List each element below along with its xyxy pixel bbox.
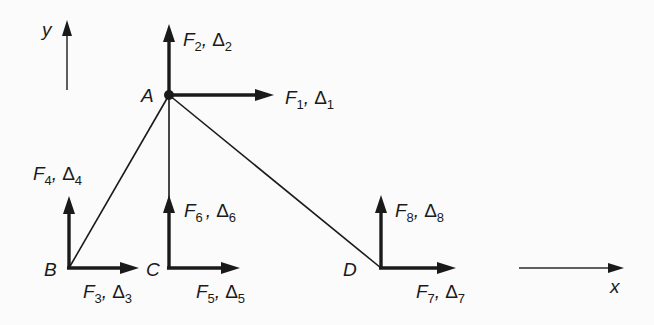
delta-subscript: 5	[238, 291, 245, 306]
y-axis-arrowhead-icon	[62, 20, 72, 36]
delta-subscript: 8	[437, 210, 444, 225]
member-AD	[169, 95, 381, 268]
arrowhead-right-icon	[255, 89, 274, 101]
delta-subscript: 4	[75, 173, 82, 188]
arrowhead-up-icon	[163, 24, 175, 42]
delta-symbol: Δ	[216, 200, 229, 221]
dof-label-7: F7,Δ7	[416, 281, 465, 306]
force-subscript: 8	[407, 210, 414, 225]
force-subscript: 3	[95, 291, 102, 306]
delta-subscript: 7	[458, 291, 465, 306]
delta-subscript: 2	[225, 39, 232, 54]
delta-symbol: Δ	[445, 281, 458, 302]
comma: ,	[414, 200, 419, 221]
force-subscript: 5	[208, 291, 215, 306]
dof-label-1: F1,Δ1	[285, 87, 334, 112]
dof-label-6: F6,Δ6	[184, 200, 236, 225]
arrowhead-right-icon	[221, 262, 240, 274]
delta-subscript: 6	[229, 210, 236, 225]
delta-symbol: Δ	[62, 163, 75, 184]
comma: ,	[102, 281, 107, 302]
dof-label-5: F5,Δ5	[196, 281, 245, 306]
force-subscript: 2	[195, 39, 202, 54]
force-subscript: 7	[428, 291, 435, 306]
y-axis: y	[40, 19, 72, 90]
comma: ,	[304, 87, 309, 108]
delta-subscript: 1	[327, 97, 334, 112]
comma: ,	[215, 281, 220, 302]
node-B: B	[44, 196, 139, 280]
comma: ,	[206, 200, 211, 221]
force-subscript: 4	[45, 173, 52, 188]
arrowhead-up-icon	[163, 195, 175, 213]
node-A-label: A	[140, 85, 154, 106]
node-D-label: D	[343, 259, 357, 280]
delta-symbol: Δ	[225, 281, 238, 302]
truss-members	[69, 95, 381, 268]
dof-label-3: F3,Δ3	[83, 281, 132, 306]
dof-label-4: F4,Δ4	[33, 163, 82, 188]
delta-symbol: Δ	[212, 29, 225, 50]
arrowhead-right-icon	[437, 262, 456, 274]
arrowhead-right-icon	[120, 262, 139, 274]
comma: ,	[435, 281, 440, 302]
delta-subscript: 3	[125, 291, 132, 306]
comma: ,	[202, 29, 207, 50]
comma: ,	[52, 163, 57, 184]
member-AB	[69, 95, 169, 268]
force-subscript: 6	[196, 210, 203, 225]
x-axis: x	[519, 263, 624, 297]
force-subscript: 1	[297, 97, 304, 112]
dof-label-2: F2,Δ2	[183, 29, 232, 54]
arrowhead-up-icon	[375, 195, 387, 213]
x-axis-arrowhead-icon	[608, 263, 624, 273]
y-axis-label: y	[40, 19, 53, 40]
truss-diagram: y x A B C D	[0, 0, 654, 325]
delta-symbol: Δ	[314, 87, 327, 108]
delta-symbol: Δ	[112, 281, 125, 302]
node-C-label: C	[146, 259, 160, 280]
x-axis-label: x	[609, 276, 621, 297]
delta-symbol: Δ	[424, 200, 437, 221]
node-B-label: B	[44, 259, 57, 280]
dof-label-8: F8,Δ8	[395, 200, 444, 225]
arrowhead-up-icon	[63, 196, 75, 214]
